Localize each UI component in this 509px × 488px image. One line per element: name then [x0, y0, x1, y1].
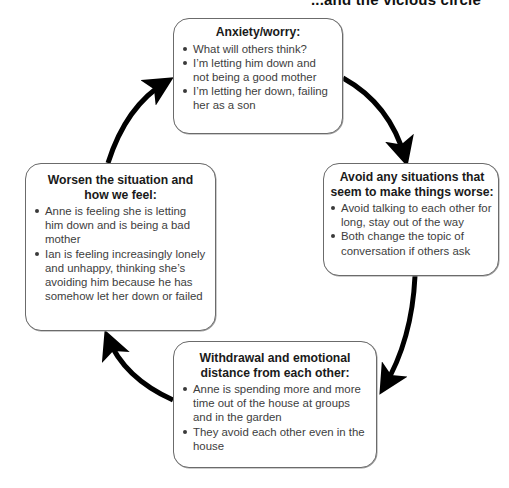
- node-title: Avoid any situations that seem to make t…: [330, 170, 494, 199]
- node-anxiety-worry: Anxiety/worry: What will others think? I…: [173, 18, 343, 134]
- list-item: Both change the topic of conversation if…: [330, 229, 494, 257]
- arrow-bottom-to-left: [108, 338, 173, 400]
- list-item: Anne is spending more and more time out …: [182, 382, 368, 425]
- list-item: Anne is feeling she is letting him down …: [34, 204, 207, 247]
- node-title: Anxiety/worry:: [182, 25, 334, 40]
- node-title: Worsen the situation and how we feel:: [34, 173, 207, 202]
- node-list: What will others think? I’m letting him …: [182, 42, 334, 113]
- node-title: Withdrawal and emotional distance from e…: [182, 351, 368, 380]
- node-list: Anne is feeling she is letting him down …: [34, 204, 207, 303]
- node-list: Avoid talking to each other for long, st…: [330, 201, 494, 258]
- node-avoid-situations: Avoid any situations that seem to make t…: [323, 163, 499, 276]
- arrow-top-to-right: [343, 78, 405, 158]
- node-withdrawal-distance: Withdrawal and emotional distance from e…: [173, 341, 377, 468]
- node-worsen-situation: Worsen the situation and how we feel: An…: [25, 163, 216, 331]
- list-item: They avoid each other even in the house: [182, 425, 368, 453]
- list-item: I’m letting her down, failing her as a s…: [182, 84, 334, 112]
- list-item: I’m letting him down and not being a goo…: [182, 56, 334, 84]
- list-item: What will others think?: [182, 42, 334, 56]
- arrow-right-to-bottom: [384, 276, 415, 387]
- arrow-left-to-top: [108, 82, 166, 163]
- list-item: Avoid talking to each other for long, st…: [330, 201, 494, 229]
- list-item: Ian is feeling increasingly lonely and u…: [34, 247, 207, 304]
- node-list: Anne is spending more and more time out …: [182, 382, 368, 453]
